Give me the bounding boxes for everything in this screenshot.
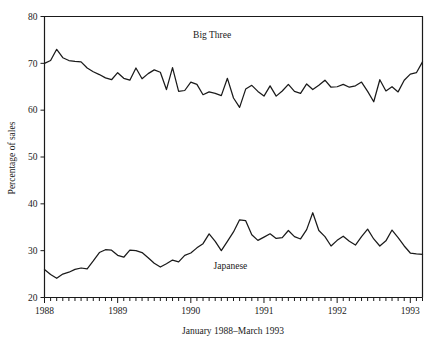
x-tick-label: 1989 [108,306,127,316]
chart-figure: 20304050607080 198819891990199119921993 … [0,0,443,346]
x-tick-label: 1988 [35,306,54,316]
series-label-big-three: Big Three [193,30,231,40]
x-tick-label: 1990 [181,306,200,316]
x-axis-title: January 1988–March 1993 [182,326,284,336]
y-tick-label: 60 [28,105,38,115]
series-annotations: Big ThreeJapanese [193,30,247,272]
plot-frame [45,17,423,298]
y-tick-label: 80 [28,12,38,22]
series-label-japanese: Japanese [214,261,248,271]
y-tick-label: 40 [28,199,38,209]
y-tick-label: 70 [28,59,38,69]
x-tick-label: 1993 [401,306,420,316]
y-tick-label: 50 [28,152,38,162]
frame-border [45,17,423,298]
series-line-big-three [45,49,423,107]
x-tick-label: 1992 [328,306,347,316]
y-tick-label: 30 [28,246,38,256]
data-series-group [45,49,423,278]
x-tick-label: 1991 [254,306,273,316]
y-tick-label: 20 [28,293,38,303]
y-axis-title: Percentage of sales [7,121,17,194]
line-chart: 20304050607080 198819891990199119921993 … [0,0,443,346]
x-axis: 198819891990199119921993 [35,298,423,316]
y-axis: 20304050607080 [28,12,45,303]
